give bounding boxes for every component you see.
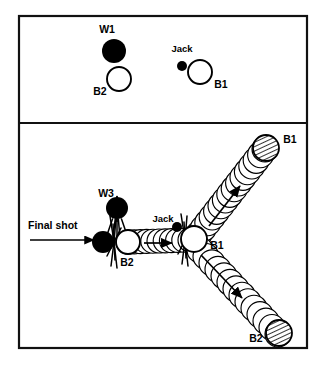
figure-frame [19,16,307,348]
top-b2-ball [107,67,131,91]
figure-canvas: W1B2JackB1 W3B2JackB1B1B2Final shot [0,0,327,375]
bottom-jack-ball-after-label: Jack [152,213,174,224]
bottom-b1-struck-ball [181,226,207,252]
top-jack-ball [177,61,187,71]
final-shot-label: Final shot [28,219,78,231]
bottom-b1-struck-ball-label: B1 [210,239,224,251]
bottom-b2-final-ball [266,320,292,346]
impact-spoke [114,242,115,260]
top-b1-ball-label: B1 [214,78,228,90]
bottom-b1-final-ball-label: B1 [283,133,297,145]
bottom-b2-struck-ball [116,230,140,254]
bottom-w3-ball-label: W3 [98,187,114,199]
bottom-w3-ball [106,197,128,219]
bottom-b1-final-ball [253,135,279,161]
bottom-b2-struck-ball-label: B2 [120,256,134,268]
top-jack-ball-label: Jack [171,43,193,54]
bottom-shooter-ball [92,231,114,253]
figure-outer-border [19,16,307,348]
bottom-b2-final-ball-label: B2 [249,332,263,344]
before-shot-panel: W1B2JackB1 [93,23,228,97]
bowls-shot-diagram: W1B2JackB1 W3B2JackB1B1B2Final shot [0,0,327,375]
top-w1-ball-label: W1 [99,23,115,35]
top-b1-ball [188,60,212,84]
top-w1-ball [102,39,126,63]
top-b2-ball-label: B2 [93,85,107,97]
after-shot-panel: W3B2JackB1B1B2Final shot [28,133,297,347]
